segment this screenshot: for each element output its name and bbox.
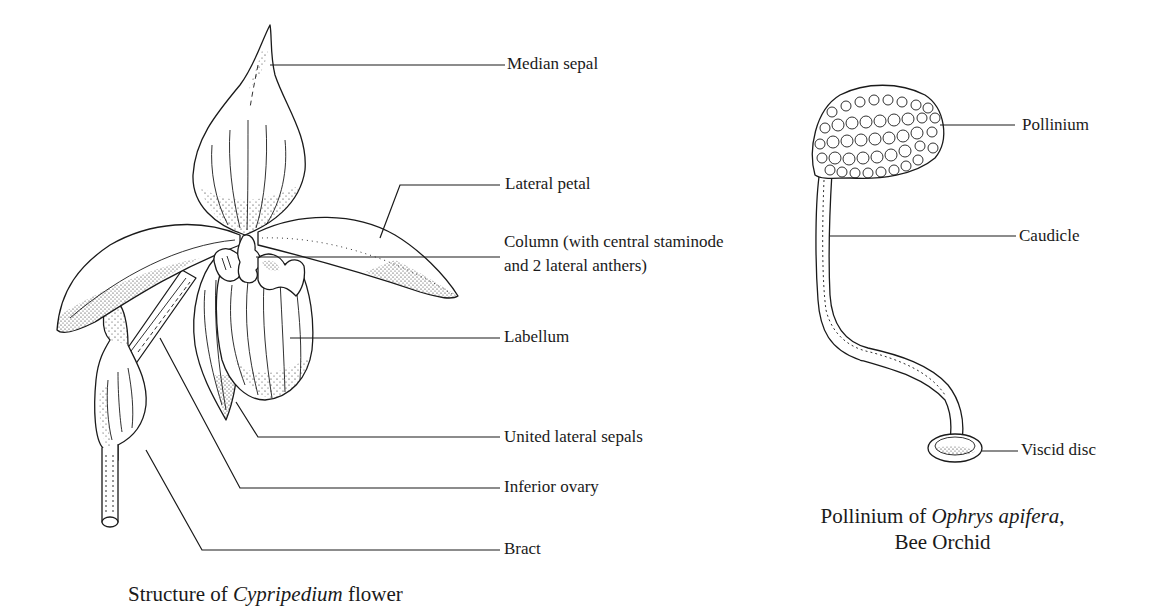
caption-pollinium-species: Ophrys apifera <box>931 504 1059 528</box>
median-sepal-drawing <box>193 25 305 235</box>
caption-cypripedium-suffix: flower <box>343 582 403 606</box>
label-caudicle: Caudicle <box>1019 226 1079 246</box>
label-column-line2: and 2 lateral anthers) <box>504 256 647 276</box>
label-united-lateral-sepals: United lateral sepals <box>504 427 643 447</box>
label-bract: Bract <box>504 539 541 559</box>
label-lateral-petal: Lateral petal <box>505 174 590 194</box>
label-labellum: Labellum <box>504 327 569 347</box>
label-median-sepal: Median sepal <box>507 54 598 74</box>
caption-cypripedium: Structure of Cypripedium flower <box>128 581 403 607</box>
caption-pollinium-suffix: , <box>1059 504 1064 528</box>
caption-pollinium-prefix: Pollinium of <box>821 504 932 528</box>
caption-pollinium-line2: Bee Orchid <box>800 529 1085 555</box>
cypripedium-flower-drawing <box>57 25 458 527</box>
label-inferior-ovary: Inferior ovary <box>504 477 599 497</box>
label-pollinium: Pollinium <box>1022 115 1089 135</box>
caption-cypripedium-prefix: Structure of <box>128 582 233 606</box>
diagram-canvas: Median sepal Lateral petal Column (with … <box>0 0 1167 615</box>
pollinium-drawing <box>812 85 982 462</box>
caption-cypripedium-genus: Cypripedium <box>233 582 343 606</box>
caption-pollinium: Pollinium of Ophrys apifera, Bee Orchid <box>800 503 1085 555</box>
label-column-line1: Column (with central staminode <box>504 232 724 252</box>
label-viscid-disc: Viscid disc <box>1021 440 1096 460</box>
caption-pollinium-line1: Pollinium of Ophrys apifera, <box>800 503 1085 529</box>
